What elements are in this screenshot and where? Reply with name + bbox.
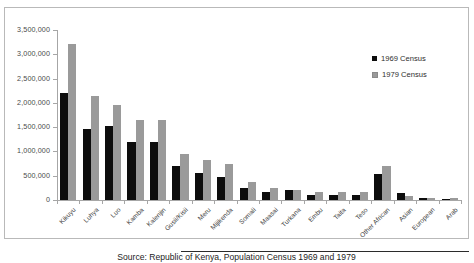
bar-1979: [450, 198, 458, 200]
bar-1979: [68, 44, 76, 200]
bar-1979: [158, 120, 166, 200]
x-tick-mark: [237, 200, 238, 204]
bar-1969: [195, 173, 203, 200]
y-tick-label: 3,000,000: [5, 49, 50, 58]
bar-1969: [307, 195, 315, 200]
legend-label-1979: 1979 Census: [382, 70, 427, 79]
y-tick-label: 2,000,000: [5, 98, 50, 107]
y-tick-label: 3,500,000: [5, 25, 50, 34]
bar-1969: [329, 195, 337, 200]
bar-1969: [285, 190, 293, 200]
bar-1969: [352, 195, 360, 200]
y-tick-label: 2,500,000: [5, 74, 50, 83]
bar-1979: [136, 120, 144, 200]
x-tick-mark: [124, 200, 125, 204]
bar-1969: [150, 142, 158, 200]
bar-1969: [127, 142, 135, 200]
bar-1979: [270, 188, 278, 200]
x-tick-mark: [439, 200, 440, 204]
bar-1969: [397, 193, 405, 200]
bar-1969: [240, 188, 248, 200]
x-tick-mark: [102, 200, 103, 204]
x-tick-mark: [147, 200, 148, 204]
x-tick-mark: [281, 200, 282, 204]
bar-1979: [405, 196, 413, 200]
y-tick-label: 1,500,000: [5, 122, 50, 131]
bar-1969: [442, 199, 450, 200]
bar-1979: [180, 154, 188, 200]
bar-1979: [203, 160, 211, 200]
y-tick-label: 0: [5, 195, 50, 204]
bar-1969: [217, 177, 225, 200]
bar-1979: [360, 192, 368, 200]
x-tick-mark: [192, 200, 193, 204]
bar-1979: [382, 166, 390, 200]
legend-swatch-icon-1969: [372, 56, 377, 61]
x-tick-mark: [416, 200, 417, 204]
x-tick-mark: [326, 200, 327, 204]
legend-label-1969: 1969 Census: [381, 54, 426, 63]
legend-swatch-icon-1979: [372, 72, 378, 78]
x-tick-mark: [79, 200, 80, 204]
figure-caption: Source: Republic of Kenya, Population Ce…: [4, 252, 469, 263]
bar-1979: [113, 105, 121, 200]
bar-1969: [172, 166, 180, 200]
bar-1969: [419, 198, 427, 200]
x-tick-mark: [349, 200, 350, 204]
bar-1979: [91, 96, 99, 200]
chart-legend: 1969 Census 1979 Census: [372, 52, 468, 84]
bar-1969: [83, 129, 91, 200]
x-tick-mark: [169, 200, 170, 204]
legend-item-1979: 1979 Census: [372, 68, 468, 81]
x-tick-mark: [259, 200, 260, 204]
x-tick-mark: [461, 200, 462, 204]
bar-1979: [315, 192, 323, 200]
figure-container: 0500,0001,000,0001,500,0002,000,0002,500…: [0, 0, 474, 263]
x-tick-mark: [304, 200, 305, 204]
bar-1979: [293, 190, 301, 200]
bar-1969: [60, 93, 68, 200]
bar-1979: [248, 182, 256, 200]
x-tick-mark: [214, 200, 215, 204]
y-tick-label: 1,000,000: [5, 146, 50, 155]
y-tick-label: 500,000: [5, 171, 50, 180]
x-tick-mark: [394, 200, 395, 204]
bar-1969: [105, 126, 113, 200]
x-tick-mark: [371, 200, 372, 204]
x-tick-mark: [57, 200, 58, 204]
bar-1969: [262, 192, 270, 200]
bar-1969: [374, 174, 382, 200]
chart-frame: 0500,0001,000,0001,500,0002,000,0002,500…: [4, 7, 469, 239]
bar-1979: [225, 164, 233, 200]
legend-item-1969: 1969 Census: [372, 52, 468, 65]
bar-1979: [427, 198, 435, 200]
bar-1979: [338, 192, 346, 200]
